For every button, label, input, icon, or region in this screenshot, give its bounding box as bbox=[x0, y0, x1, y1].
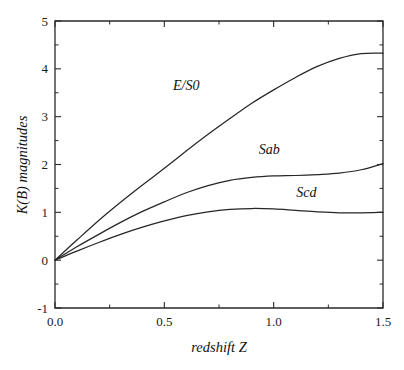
y-tick-label: 0 bbox=[42, 253, 49, 268]
y-tick-label: 4 bbox=[42, 61, 49, 76]
y-tick-label: 5 bbox=[42, 14, 49, 29]
plot-frame bbox=[55, 21, 383, 308]
curve-e-s0 bbox=[55, 53, 383, 260]
y-axis-tick-labels: 543210-1 bbox=[37, 14, 48, 316]
x-tick-label: 1.5 bbox=[375, 314, 391, 329]
curve-label-scd: Scd bbox=[296, 185, 317, 200]
y-axis-minor-ticks bbox=[55, 45, 383, 284]
y-tick-label: 2 bbox=[42, 157, 49, 172]
x-axis-title: redshift Z bbox=[191, 339, 247, 355]
chart-figure: 543210-1 0.00.51.01.5 E/S0SabScd redshif… bbox=[0, 0, 404, 370]
curve-label-sab: Sab bbox=[259, 142, 280, 157]
curve-label-e-s0: E/S0 bbox=[172, 78, 199, 93]
curve-sab bbox=[55, 164, 383, 261]
x-tick-label: 0.0 bbox=[47, 314, 63, 329]
x-axis-minor-ticks bbox=[110, 21, 329, 308]
k-correction-line-chart: 543210-1 0.00.51.01.5 E/S0SabScd redshif… bbox=[0, 0, 404, 370]
x-axis-major-ticks bbox=[55, 21, 383, 308]
y-axis-title: K(B) magnitudes bbox=[14, 115, 31, 215]
data-curves bbox=[55, 53, 383, 260]
y-tick-label: 3 bbox=[42, 109, 49, 124]
x-tick-label: 0.5 bbox=[156, 314, 172, 329]
plot-border bbox=[55, 21, 383, 308]
x-tick-label: 1.0 bbox=[266, 314, 282, 329]
y-axis-major-ticks bbox=[55, 21, 383, 308]
y-tick-label: 1 bbox=[42, 205, 49, 220]
curve-annotations: E/S0SabScd bbox=[172, 78, 318, 200]
x-axis-tick-labels: 0.00.51.01.5 bbox=[47, 314, 391, 329]
